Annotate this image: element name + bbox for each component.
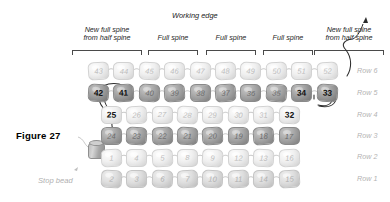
bead-number: 50 [272,66,281,75]
bead-11: 11 [227,169,249,188]
bead-1: 1 [100,148,122,167]
bead-number: 37 [221,88,230,98]
spine-label-line1: Full spine [204,34,258,42]
spine-label-1: New full spinefrom half spine [70,26,144,43]
bead-50: 50 [265,61,287,80]
bead-52: 52 [316,61,338,80]
bead-18: 18 [252,126,274,145]
figure-caption: Figure 27 [16,130,60,141]
bead-19: 19 [228,127,249,145]
bead-45: 45 [138,61,160,80]
spine-label-line1: Full spine [261,34,315,42]
bead-12: 12 [228,148,249,166]
bead-51: 51 [291,62,312,80]
bead-number: 21 [183,131,192,140]
bead-47: 47 [189,61,211,80]
bead-37: 37 [214,83,236,102]
bead-number: 34 [297,88,307,98]
bead-26: 26 [125,105,147,124]
bead-number: 20 [208,131,217,140]
bead-number: 15 [284,174,293,184]
spine-bracket-3 [206,50,256,55]
bead-29: 29 [202,105,223,123]
bead-31: 31 [253,105,275,124]
bead-number: 43 [94,66,103,76]
bead-6: 6 [151,169,173,188]
bead-number: 48 [221,66,230,75]
bead-number: 47 [196,66,205,75]
bead-number: 42 [94,87,104,97]
bead-number: 26 [132,109,141,119]
bead-30: 30 [227,105,249,124]
bead-number: 33 [322,87,332,97]
bead-number: 24 [107,131,116,140]
row-label-row-3: Row 3 [357,131,377,140]
bead-38: 38 [189,84,210,102]
bead-24: 24 [101,127,122,145]
spine-label-line2: from half spine [312,34,386,42]
bead-number: 9 [210,153,215,162]
bead-20: 20 [202,126,224,145]
spine-label-4: Full spine [261,34,315,42]
bead-number: 2 [109,174,114,183]
bead-number: 5 [160,153,165,162]
row-label-row-5: Row 5 [357,88,377,97]
bead-43: 43 [87,61,109,80]
bead-number: 18 [259,131,268,141]
bead-number: 7 [185,174,190,183]
bead-5: 5 [151,148,173,167]
bead-number: 41 [119,88,129,98]
bead-21: 21 [177,127,199,146]
spine-label-2: Full spine [146,34,200,42]
bead-40: 40 [138,84,160,103]
bead-36: 36 [240,84,261,102]
bead-15: 15 [278,169,300,188]
figure-diagram: Working edge New full spinefrom half spi… [0,0,390,202]
bead-number: 6 [160,174,165,183]
spine-bracket-1 [72,50,142,55]
bead-7: 7 [177,170,199,189]
bead-number: 8 [185,153,189,162]
bead-35: 35 [265,83,287,102]
bead-2: 2 [100,169,122,188]
bead-number: 13 [259,152,268,161]
bead-22: 22 [151,127,173,146]
bead-number: 27 [158,110,166,119]
spine-bracket-5 [314,50,384,55]
bead-number: 51 [297,66,306,75]
bead-number: 39 [170,88,179,97]
bead-46: 46 [164,62,185,80]
row-label-row-1: Row 1 [357,174,377,183]
bead-32: 32 [278,105,300,124]
bead-17: 17 [279,127,300,145]
stop-bead-label: Stop bead [38,176,73,185]
bead-number: 45 [145,66,154,76]
bead-number: 17 [285,131,293,140]
row-label-row-6: Row 6 [357,66,377,75]
bead-number: 3 [134,174,138,183]
spine-bracket-4 [263,50,313,55]
bead-9: 9 [202,148,224,167]
bead-number: 44 [120,66,128,75]
bead-number: 12 [234,153,243,162]
bead-number: 22 [158,131,167,140]
bead-number: 38 [196,88,205,97]
spine-label-3: Full spine [204,34,258,42]
bead-49: 49 [240,62,262,81]
bead-42: 42 [88,83,110,102]
bead-number: 52 [323,66,332,76]
bead-number: 23 [132,131,141,140]
bead-number: 49 [247,66,256,75]
bead-number: 40 [145,88,154,97]
working-edge-label: Working edge [172,12,218,20]
bead-13: 13 [253,148,275,167]
bead-28: 28 [176,105,198,124]
bead-number: 36 [247,88,255,97]
bead-number: 25 [106,109,116,119]
bead-number: 19 [234,131,243,140]
bead-10: 10 [202,170,224,189]
bead-number: 11 [234,174,242,183]
row-label-row-2: Row 2 [357,152,377,161]
bead-number: 30 [234,109,243,118]
bead-27: 27 [152,106,173,124]
